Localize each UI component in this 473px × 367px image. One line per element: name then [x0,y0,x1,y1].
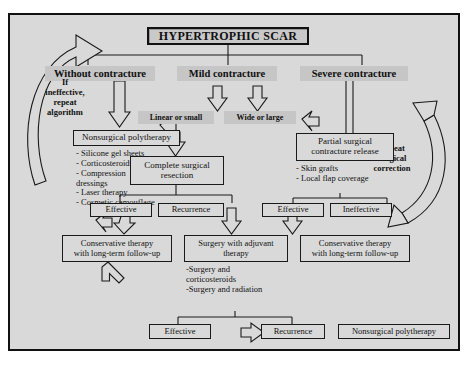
loop-arrow-right-head [413,101,437,121]
loop-label-left: If ineffective, repeat algorithm [34,77,96,117]
arrow-wide-to-partial [302,111,319,131]
arrow-mild-to-linear [208,86,227,111]
diagram-title: HYPERTROPHIC SCAR [147,27,309,45]
diagram-frame: HYPERTROPHIC SCAR Without contracture Mi… [8,13,460,351]
arrow-recurrence-to-adjuvant [222,208,241,234]
node-conservative-therapy-right: Conservative therapy with long-term foll… [300,235,410,262]
arrow-without-to-nonsurgical [109,81,130,127]
node-conservative-therapy-left: Conservative therapy with long-term foll… [62,235,172,262]
node-bottom-nonsurgical-polytherapy: Nonsurgical polytherapy [338,324,450,339]
node-outcome-effective-1: Effective [90,203,152,217]
node-bottom-recurrence: Recurrence [261,324,325,339]
arrow-effective3-to-conservative-left [102,262,124,283]
node-outcome-effective-2: Effective [262,203,324,217]
node-surgery-with-adjuvant-therapy: Surgery with adjuvant therapy [184,235,288,262]
adjuvant-therapy-items: -Surgery and corticosteroids -Surgery an… [186,265,296,295]
category-mild-contracture: Mild contracture [177,66,277,81]
node-nonsurgical-polytherapy: Nonsurgical polytherapy [73,130,180,146]
node-outcome-ineffective-2: Ineffective [330,203,392,217]
node-partial-surgical-contracture-release: Partial surgical contracture release [296,133,394,161]
category-severe-contracture: Severe contracture [300,66,408,81]
node-complete-surgical-resection: Complete surgical resection [130,156,224,185]
node-outcome-recurrence-1: Recurrence [158,203,224,217]
node-bottom-effective: Effective [149,324,211,339]
arrow-mild-to-wide [248,86,267,111]
subtype-linear-or-small: Linear or small [138,111,214,124]
partial-release-items: - Skin grafts - Local flap coverage [296,164,406,184]
subtype-wide-or-large: Wide or large [224,111,296,124]
